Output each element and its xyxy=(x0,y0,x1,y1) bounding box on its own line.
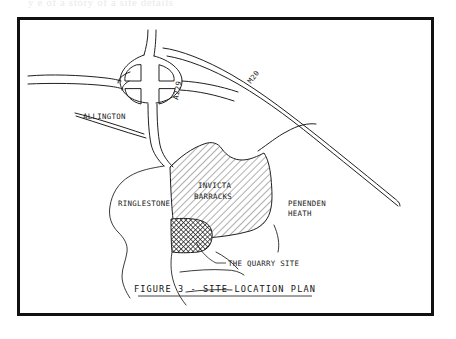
top-text-fragment: y e of a story of a site details xyxy=(28,0,428,8)
label-penenden-heath-line1: PENENDEN xyxy=(288,199,326,208)
label-penenden-heath-line2: HEATH xyxy=(288,209,312,218)
label-ringlestone: RINGLESTONE xyxy=(118,199,170,208)
label-invicta-barracks-line2: BARRACKS xyxy=(194,192,232,201)
site-location-map: ALLINGTON RINGLESTONE PENENDEN HEATH INV… xyxy=(20,20,431,313)
label-allington: ALLINGTON xyxy=(83,112,126,121)
a229-south-arm xyxy=(148,104,173,167)
figure-title: FIGURE 3 - SITE LOCATION PLAN xyxy=(134,284,316,294)
east-link-road xyxy=(180,81,238,101)
a229-north-arm xyxy=(144,30,156,56)
west-approach-road xyxy=(28,75,123,89)
label-the-quarry-site: THE QUARRY SITE xyxy=(228,259,299,268)
scanned-page: y e of a story of a site details xyxy=(0,0,456,339)
quarry-site-area xyxy=(171,218,212,252)
label-m20: M20 xyxy=(245,69,261,86)
label-invicta-barracks-line1: INVICTA xyxy=(198,181,231,190)
figure-title-group: FIGURE 3 - SITE LOCATION PLAN xyxy=(134,284,316,296)
figure-frame: ALLINGTON RINGLESTONE PENENDEN HEATH INV… xyxy=(17,17,434,316)
label-a229: A229 xyxy=(171,80,183,100)
